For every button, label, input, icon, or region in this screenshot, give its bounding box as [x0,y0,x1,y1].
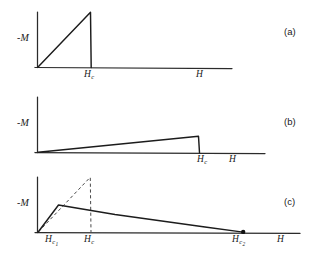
panel-c-x-axis-label: H [277,235,284,245]
panel-c-hc1-label: Hc1 [45,235,58,245]
panel-b-hc-label: Hc [197,155,207,165]
panel-b-x-axis-label: H [229,155,236,165]
panel-a-curve [38,12,91,67]
panel-c-dashed-vertical [90,178,91,232]
panel-a-hc-label: Hc [84,70,94,80]
panel-b-y-axis-label: -M [17,118,29,128]
panel-b-curve [38,136,199,153]
panel-c-letter: (c) [284,197,295,207]
panel-a-y-axis-label: -M [17,33,29,43]
magnetization-figure: -M Hc H (a) -M Hc H (b) -M Hc1 Hc Hc2 H … [0,0,316,259]
panel-b-graphics [35,97,265,154]
panel-b-letter: (b) [284,117,296,127]
figure-canvas [0,0,316,259]
panel-a-x-axis-label: H [196,70,203,80]
panel-c-hc2-marker [241,230,245,234]
panel-c-graphics [35,177,300,234]
panel-a-graphics [35,12,232,69]
panel-a-letter: (a) [284,27,296,37]
panel-c-hc2-label: Hc2 [232,235,245,245]
panel-c-dashed-diagonal [39,178,91,232]
panel-c-x-axis [35,233,300,234]
panel-c-curve [38,205,243,232]
panel-c-hc-label: Hc [84,235,94,245]
panel-c-y-axis-label: -M [17,198,29,208]
